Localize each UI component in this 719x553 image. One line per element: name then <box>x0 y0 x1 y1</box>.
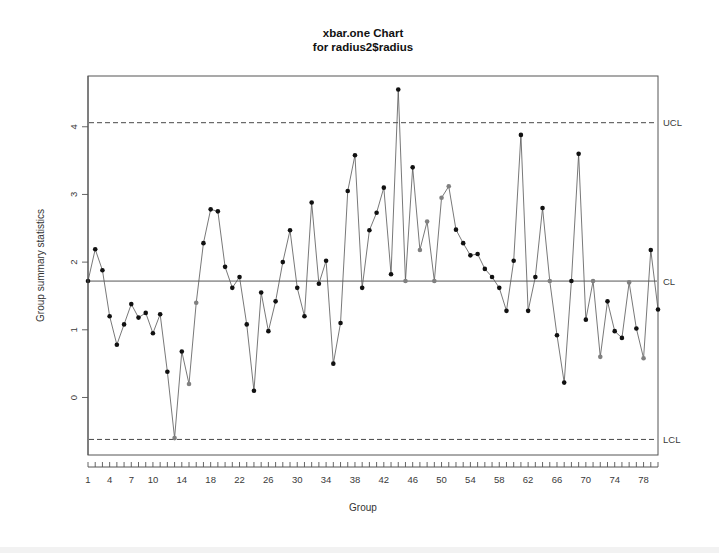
data-point <box>533 275 538 280</box>
y-axis: 01234Group summary statistics <box>35 76 88 455</box>
x-tick-label: 78 <box>638 474 649 485</box>
data-point <box>179 349 184 354</box>
data-point <box>562 380 567 385</box>
data-point <box>165 369 170 374</box>
data-point <box>266 329 271 334</box>
chart-subtitle: for radius2$radius <box>313 41 413 53</box>
x-tick-label: 14 <box>177 474 188 485</box>
data-point <box>432 279 437 284</box>
data-point <box>345 189 350 194</box>
y-tick-label: 0 <box>68 395 79 400</box>
y-tick-label: 3 <box>68 192 79 197</box>
x-tick-label: 62 <box>523 474 534 485</box>
data-point <box>389 272 394 277</box>
x-tick-label: 42 <box>379 474 390 485</box>
data-point <box>605 299 610 304</box>
data-point <box>93 247 98 252</box>
data-point <box>367 228 372 233</box>
data-point <box>360 286 365 291</box>
data-point <box>324 258 329 263</box>
x-axis: 147101418222630343842465054586266707478G… <box>85 462 658 513</box>
x-tick-label: 22 <box>234 474 245 485</box>
data-point <box>107 314 112 319</box>
data-point <box>425 219 430 224</box>
data-point <box>648 248 653 253</box>
control-limit-labels: UCLCLLCL <box>663 117 682 445</box>
data-point <box>259 290 264 295</box>
cl-label: CL <box>663 276 675 287</box>
data-point <box>288 228 293 233</box>
data-point <box>208 207 213 212</box>
data-point <box>490 275 495 280</box>
data-point <box>641 356 646 361</box>
data-point <box>244 322 249 327</box>
data-point <box>122 322 127 327</box>
data-point <box>569 279 574 284</box>
data-point <box>216 209 221 214</box>
x-tick-label: 10 <box>148 474 159 485</box>
data-point <box>511 258 516 263</box>
x-tick-label: 7 <box>129 474 134 485</box>
data-point <box>540 206 545 211</box>
x-tick-label: 46 <box>407 474 418 485</box>
data-point <box>483 267 488 272</box>
data-point <box>129 302 134 307</box>
data-point <box>317 281 322 286</box>
data-point <box>172 436 177 441</box>
lcl-label: LCL <box>663 434 680 445</box>
data-point <box>331 361 336 366</box>
x-tick-label: 58 <box>494 474 505 485</box>
data-point <box>158 312 163 317</box>
data-point <box>237 275 242 280</box>
x-tick-label: 18 <box>205 474 216 485</box>
data-point <box>468 253 473 258</box>
data-point <box>223 265 228 270</box>
x-tick-label: 4 <box>107 474 112 485</box>
x-tick-label: 66 <box>552 474 563 485</box>
data-point <box>598 355 603 360</box>
data-point <box>230 286 235 291</box>
x-tick-label: 1 <box>85 474 90 485</box>
chart-svg: xbar.one Chartfor radius2$radiusUCLCLLCL… <box>0 0 719 553</box>
data-point <box>576 152 581 157</box>
x-tick-label: 26 <box>263 474 274 485</box>
series-line <box>88 90 658 439</box>
data-point <box>273 299 278 304</box>
data-point <box>201 241 206 246</box>
data-point <box>374 210 379 215</box>
data-point <box>194 300 199 305</box>
data-point <box>403 279 408 284</box>
data-point <box>100 268 105 273</box>
data-point <box>252 388 257 393</box>
data-point <box>446 184 451 189</box>
data-point <box>497 286 502 291</box>
data-point <box>338 321 343 326</box>
x-tick-label: 54 <box>465 474 476 485</box>
data-point <box>281 260 286 265</box>
data-point <box>309 200 314 205</box>
data-point <box>656 307 661 312</box>
data-point <box>519 133 524 138</box>
data-point <box>382 185 387 190</box>
data-point <box>187 382 192 387</box>
x-axis-title: Group <box>349 502 377 513</box>
data-point <box>396 87 401 92</box>
data-point <box>475 252 480 257</box>
x-tick-label: 34 <box>321 474 332 485</box>
data-point <box>620 336 625 341</box>
y-tick-label: 1 <box>68 327 79 332</box>
data-point <box>627 280 632 285</box>
data-point <box>136 315 141 320</box>
y-axis-title: Group summary statistics <box>35 209 46 322</box>
chart-title: xbar.one Chart <box>323 27 404 39</box>
data-point <box>555 333 560 338</box>
data-point <box>526 309 531 314</box>
series-points <box>86 87 661 440</box>
x-tick-label: 50 <box>436 474 447 485</box>
data-point <box>418 248 423 253</box>
x-tick-label: 70 <box>581 474 592 485</box>
data-point <box>634 326 639 331</box>
data-point <box>151 331 156 336</box>
y-tick-label: 2 <box>68 259 79 264</box>
data-point <box>410 165 415 170</box>
